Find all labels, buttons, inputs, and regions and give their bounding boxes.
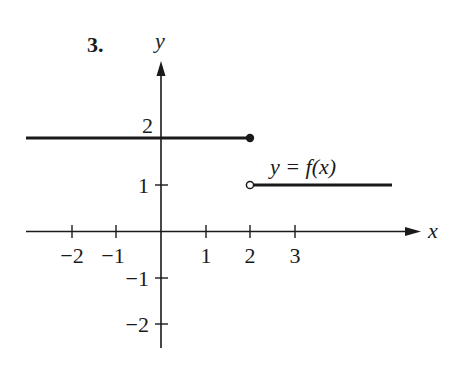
function-graph-figure: 3. y x −2 −1 1 2 3 2 1 −1 −2 y xyxy=(0,0,453,367)
y-axis-arrow-icon xyxy=(157,61,166,76)
x-axis-arrow-icon xyxy=(405,227,421,236)
x-tick-label: −2 xyxy=(60,243,83,268)
open-dot-icon xyxy=(246,181,253,188)
x-tick-label: 2 xyxy=(245,243,256,268)
y-tick-label: −1 xyxy=(126,266,149,291)
x-axis: x xyxy=(26,218,438,243)
y-tick-label: 1 xyxy=(138,173,149,198)
function-label: y = f(x) xyxy=(268,154,336,179)
x-tick-label: −1 xyxy=(101,243,124,268)
graph-svg: 3. y x −2 −1 1 2 3 2 1 −1 −2 y xyxy=(0,0,453,367)
x-tick-label: 1 xyxy=(201,243,212,268)
problem-number: 3. xyxy=(87,32,104,57)
x-tick-label: 3 xyxy=(290,243,301,268)
y-axis: y xyxy=(153,28,166,348)
closed-dot-icon xyxy=(246,134,254,142)
y-axis-label: y xyxy=(153,28,165,53)
y-tick-label: −2 xyxy=(126,312,149,337)
x-axis-label: x xyxy=(427,218,438,243)
y-tick-label: 2 xyxy=(142,113,153,138)
